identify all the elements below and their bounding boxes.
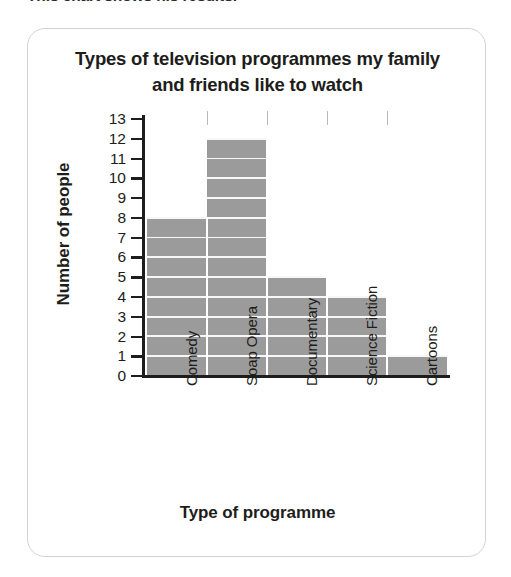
x-tick-label-science-fiction: Science Fiction — [363, 286, 380, 386]
bar-separator-3 — [326, 276, 328, 375]
chart-plot-area: Number of people Type of programme 0 1 2… — [28, 29, 487, 558]
x-tick-label-cartoons: Cartoons — [423, 326, 440, 386]
bars-layer — [28, 29, 487, 558]
caption-text: This chart shows his results. — [27, 0, 237, 5]
page-caption: This chart shows his results. — [0, 0, 511, 12]
bar-separator-1 — [206, 217, 208, 375]
x-tick-label-comedy: Comedy — [183, 331, 200, 386]
x-tick-label-soap-opera: Soap Opera — [243, 306, 260, 386]
bar-separator-2 — [266, 138, 268, 375]
x-tick-label-documentary: Documentary — [303, 298, 320, 386]
bar-separator-4 — [386, 296, 388, 375]
chart-card: Types of television programmes my family… — [27, 28, 486, 557]
